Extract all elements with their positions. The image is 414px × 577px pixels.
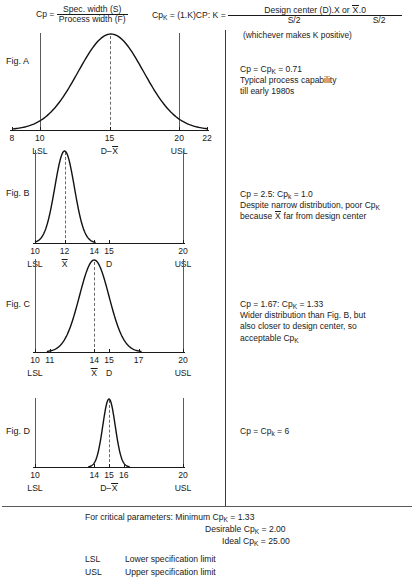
axis-annotation-label: LSL (32, 146, 47, 156)
note-fig-b: Cp = 2.5: Cpk = 1.0 Despite narrow distr… (240, 189, 412, 223)
note-fig-c-line2: Wider distribution than Fig. B, but (240, 310, 412, 321)
axis-tick-label: 20 (174, 133, 184, 143)
axis-tick (35, 349, 36, 352)
axis-tick (124, 464, 125, 467)
note-c-l4sub: K (294, 337, 298, 344)
axis-tick-label: 15 (105, 133, 115, 143)
axis-tick-label: 14 (89, 355, 99, 365)
axis-tick-label: 12 (60, 246, 70, 256)
spec-limit-line (40, 33, 41, 130)
distribution-curve (0, 0, 225, 562)
figure-label: Fig. C (6, 299, 30, 309)
note-b-l2a: Despite narrow distribution, poor Cp (240, 200, 376, 210)
axis-tick (207, 127, 208, 130)
note-c-l1b: = 1.33 (297, 299, 323, 309)
note-fig-d-line1: Cp = Cpk = 6 (240, 426, 412, 437)
axis-tick-label: 20 (178, 470, 188, 480)
axis-tick-label: 14 (89, 246, 99, 256)
spec-limit-line (183, 150, 184, 243)
xbar-overbar: X (61, 259, 68, 269)
cpk-lhs-subscript: K (163, 14, 167, 21)
spec-limit-line (179, 33, 180, 130)
vertical-divider (225, 30, 226, 506)
axis-tick (139, 349, 140, 352)
axis-tick (109, 240, 110, 243)
note-a-l1b: = 0.71 (276, 64, 302, 74)
figure-axis-line (33, 352, 185, 353)
axis-tick (110, 127, 111, 130)
summary-minimum-line: For critical parameters: Minimum CpK = 1… (85, 512, 254, 522)
note-fig-c-line3: also closer to design center, so (240, 321, 412, 332)
annotation-prefix: D– (100, 483, 111, 493)
note-fig-d: Cp = Cpk = 6 (240, 426, 412, 437)
cpk-lhs-mid: = (1.K)C (167, 10, 202, 20)
note-b-l3a: because (240, 211, 275, 221)
spec-limit-line (35, 398, 36, 467)
axis-tick (35, 464, 36, 467)
axis-annotation-label: LSL (27, 259, 42, 269)
note-d-l1sub: k (271, 430, 274, 437)
distribution-curve (0, 0, 225, 562)
axis-tick-label: 8 (10, 133, 15, 143)
cpk-formula-note: (whichever makes K positive) (243, 30, 352, 40)
axis-tick-label: 10 (30, 470, 40, 480)
axis-tick-label: 10 (35, 133, 45, 143)
summary-lead-value: = 1.33 (228, 512, 255, 522)
cp-formula-fraction: Spec. width (S) Process width (F) (57, 5, 128, 24)
center-dashed-line (109, 400, 110, 467)
note-fig-a-line3: till early 1980s (240, 86, 412, 97)
cp-formula-lhs: Cp = (36, 10, 54, 19)
axis-annotation-label: X (91, 368, 98, 378)
distribution-curve (0, 0, 225, 562)
axis-tick (94, 349, 95, 352)
summary-lead-text: For critical parameters: Minimum Cp (85, 512, 223, 522)
cpk-formula: CpK = (1.K)CP: K = Design center (D).X o… (152, 5, 402, 25)
cpk-denominators: S/2S/2 (228, 16, 402, 25)
cpk-numerator-1-xbar: X (352, 5, 359, 15)
center-dashed-line (65, 152, 66, 243)
summary-l2-value: = 2.00 (259, 524, 286, 534)
axis-tick (183, 464, 184, 467)
legend-abbr-usl: USL (85, 567, 102, 577)
axis-tick-label: 15 (104, 246, 114, 256)
figure-label: Fig. A (6, 56, 29, 66)
legend-abbr-lsl: LSL (85, 554, 100, 564)
xbar-overbar: X (91, 368, 98, 378)
axis-annotation-label: USL (175, 368, 192, 378)
axis-tick (40, 127, 41, 130)
summary-l3-sub: K (254, 540, 258, 547)
xbar-overbar: X (111, 483, 118, 493)
axis-tick (94, 464, 95, 467)
axis-tick-label: 10 (30, 355, 40, 365)
note-c-l1sub: K (293, 303, 297, 310)
xbar-overbar: X (112, 146, 119, 156)
axis-tick (12, 127, 13, 130)
note-fig-a-line1: Cp = CpK = 0.71 (240, 64, 412, 75)
figure-figc: Fig. C101114151720LSLXDUSL (0, 0, 225, 562)
note-c-l4a: acceptable Cp (240, 333, 294, 343)
annotation-prefix: D– (101, 146, 112, 156)
formula-bar: Cp = Spec. width (S) Process width (F) C… (0, 2, 414, 40)
axis-tick (35, 240, 36, 243)
cpk-numerator-1-tail: .0 (359, 5, 366, 15)
axis-tick-label: 14 (89, 470, 99, 480)
cpk-formula-fraction-1: Design center (D).X or X.0 S/2S/2 (228, 5, 402, 25)
cpk-denominator-2: S/2 (358, 16, 400, 25)
note-fig-a: Cp = CpK = 0.71 Typical process capabili… (240, 64, 412, 98)
axis-tick (50, 349, 51, 352)
axis-tick-label: 16 (119, 470, 129, 480)
axis-annotation-label: USL (175, 483, 192, 493)
center-dashed-line (110, 36, 111, 130)
summary-lead-sub: K (223, 516, 227, 523)
spec-limit-line (183, 398, 184, 467)
horizontal-divider (2, 506, 412, 507)
note-d-l1a: Cp = Cp (240, 426, 271, 436)
note-fig-a-line2: Typical process capability (240, 75, 412, 86)
summary-desirable-line: Desirable CpK = 2.00 (205, 524, 286, 534)
note-fig-c-line1: Cp = 1.67: CpK = 1.33 (240, 299, 412, 310)
note-d-l1b: = 6 (275, 426, 289, 436)
note-b-l3b: far from design center (281, 211, 366, 221)
axis-tick (109, 464, 110, 467)
axis-tick (183, 240, 184, 243)
summary-l3-value: = 25.00 (258, 536, 289, 546)
